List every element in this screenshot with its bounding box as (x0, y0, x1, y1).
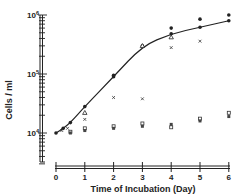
data-point (227, 19, 231, 23)
data-point (69, 132, 72, 135)
x-axis-ticks (56, 162, 229, 172)
data-point (227, 111, 230, 114)
x-tick-2: 2 (111, 173, 116, 182)
series-open-triangle (83, 35, 174, 114)
x-tick-4: 4 (169, 173, 174, 182)
data-point (140, 44, 144, 48)
plot-area (54, 13, 230, 135)
series-x (60, 40, 201, 132)
data-point (198, 25, 202, 29)
y-tick-labels: 106 105 104 (27, 10, 40, 138)
x-tick-labels: 0 1 2 3 4 5 6 (54, 173, 232, 182)
data-point (83, 105, 87, 109)
series-filled-circle (112, 13, 231, 77)
x-tick-1: 1 (83, 173, 88, 182)
data-point (170, 46, 173, 49)
x-axis-title: Time of Incubation (Day) (91, 184, 196, 194)
data-point (170, 126, 173, 129)
data-point (141, 97, 144, 100)
growth-curve-line (56, 21, 229, 133)
data-point (199, 119, 202, 122)
x-tick-5: 5 (198, 173, 203, 182)
data-point (66, 127, 69, 130)
data-point (83, 118, 86, 121)
data-point (199, 40, 202, 43)
data-point (112, 74, 116, 78)
data-point (227, 13, 231, 17)
data-point (141, 125, 144, 128)
data-point (83, 110, 87, 114)
data-point (169, 26, 173, 30)
y-axis-title: Cells / ml (4, 80, 14, 120)
y-tick-1e4: 104 (27, 128, 40, 138)
data-point (141, 122, 144, 125)
data-point (170, 123, 173, 126)
y-tick-1e6: 106 (27, 10, 39, 20)
data-point (112, 96, 115, 99)
data-point (227, 115, 230, 118)
x-tick-0: 0 (54, 173, 59, 182)
series-filled-square (69, 115, 230, 134)
data-point (54, 131, 58, 135)
growth-chart: Cells / ml 106 105 104 0 1 2 3 4 5 6 Tim… (0, 0, 239, 194)
data-point (112, 127, 115, 130)
series-open-square (69, 111, 230, 133)
series-filled-circle (54, 19, 230, 135)
y-tick-1e5: 105 (27, 69, 39, 79)
x-tick-3: 3 (140, 173, 145, 182)
data-point (198, 17, 202, 21)
data-point (83, 129, 86, 132)
x-tick-6: 6 (227, 173, 232, 182)
y-axis (40, 15, 45, 162)
data-point (69, 121, 73, 125)
